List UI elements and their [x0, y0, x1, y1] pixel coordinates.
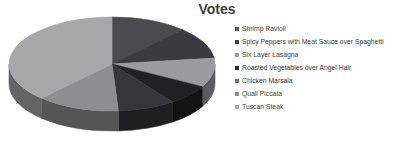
- legend-marker-icon: [235, 66, 239, 70]
- legend-label: Quail Piccata: [242, 90, 282, 98]
- legend-item[interactable]: Quail Piccata: [235, 90, 395, 98]
- legend-label: Six Layer Lasagna: [242, 51, 298, 59]
- legend-label: Shrimp Ravioli: [242, 25, 286, 33]
- legend-item[interactable]: Six Layer Lasagna: [235, 51, 395, 59]
- legend-item[interactable]: Roasted Vegetables over Angel Hair: [235, 64, 395, 72]
- legend-marker-icon: [235, 27, 239, 31]
- legend-marker-icon: [235, 105, 239, 109]
- legend-item[interactable]: Chicken Marsala: [235, 77, 395, 85]
- chart-legend: Shrimp Ravioli Spicy Peppers with Meat S…: [235, 25, 395, 116]
- legend-marker-icon: [235, 40, 239, 44]
- legend-label: Tuscan Steak: [242, 103, 283, 111]
- legend-label: Chicken Marsala: [242, 77, 293, 85]
- legend-marker-icon: [235, 92, 239, 96]
- legend-item[interactable]: Shrimp Ravioli: [235, 25, 395, 33]
- legend-label: Roasted Vegetables over Angel Hair: [242, 64, 351, 72]
- legend-marker-icon: [235, 53, 239, 57]
- chart-card: Votes Shrimp Ravioli Spicy Peppers with …: [0, 0, 398, 149]
- legend-item[interactable]: Spicy Peppers with Meat Sauce over Spagh…: [235, 38, 395, 46]
- legend-marker-icon: [235, 79, 239, 83]
- legend-label: Spicy Peppers with Meat Sauce over Spagh…: [242, 38, 384, 46]
- legend-item[interactable]: Tuscan Steak: [235, 103, 395, 111]
